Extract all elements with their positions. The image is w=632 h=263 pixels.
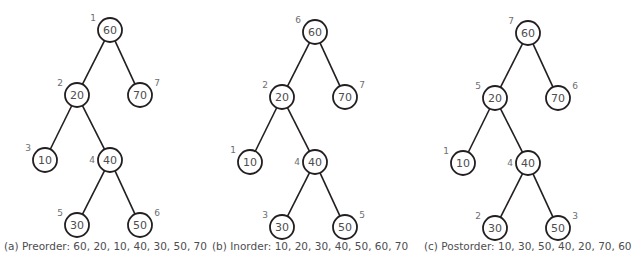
visit-order-label: 5 bbox=[475, 81, 481, 91]
node-value: 30 bbox=[488, 222, 502, 235]
edge-40-50 bbox=[115, 171, 135, 214]
edge-20-40 bbox=[500, 109, 522, 153]
tree-b: 606202707101404303505 bbox=[230, 15, 365, 239]
edge-40-50 bbox=[533, 174, 553, 217]
visit-order-label: 5 bbox=[359, 210, 365, 220]
node-value: 60 bbox=[103, 24, 117, 37]
edge-60-70 bbox=[533, 44, 553, 87]
node-value: 50 bbox=[551, 222, 565, 235]
edge-60-70 bbox=[115, 41, 135, 84]
edge-40-50 bbox=[320, 173, 340, 216]
node-value: 40 bbox=[308, 156, 322, 169]
edge-60-20 bbox=[287, 43, 309, 87]
tree-node-50: 506 bbox=[128, 208, 160, 237]
tree-node-70: 707 bbox=[128, 78, 160, 107]
tree-node-70: 707 bbox=[333, 80, 365, 109]
tree-a: 601202707103404305506 bbox=[25, 13, 160, 237]
visit-order-label: 1 bbox=[443, 146, 449, 156]
edge-20-10 bbox=[50, 106, 71, 149]
node-value: 10 bbox=[243, 156, 257, 169]
visit-order-label: 4 bbox=[507, 158, 513, 168]
edge-60-70 bbox=[320, 43, 340, 86]
caption-preorder: (a) Preorder: 60, 20, 10, 40, 30, 50, 70 bbox=[4, 240, 207, 252]
visit-order-label: 3 bbox=[262, 210, 268, 220]
edge-20-10 bbox=[255, 108, 276, 151]
node-value: 20 bbox=[488, 92, 502, 105]
visit-order-label: 5 bbox=[57, 208, 63, 218]
visit-order-label: 3 bbox=[572, 211, 578, 221]
node-value: 40 bbox=[521, 157, 535, 170]
edge-20-40 bbox=[82, 106, 104, 150]
tree-node-50: 505 bbox=[333, 210, 365, 239]
node-value: 70 bbox=[338, 91, 352, 104]
visit-order-label: 2 bbox=[57, 78, 63, 88]
visit-order-label: 3 bbox=[25, 143, 31, 153]
node-value: 30 bbox=[275, 221, 289, 234]
edge-20-10 bbox=[468, 109, 489, 152]
tree-node-70: 706 bbox=[546, 81, 578, 110]
visit-order-label: 1 bbox=[90, 13, 96, 23]
node-value: 30 bbox=[70, 219, 84, 232]
visit-order-label: 7 bbox=[508, 16, 514, 26]
visit-order-label: 1 bbox=[230, 145, 236, 155]
visit-order-label: 2 bbox=[262, 80, 268, 90]
edge-20-40 bbox=[287, 108, 309, 152]
visit-order-label: 6 bbox=[154, 208, 160, 218]
visit-order-label: 4 bbox=[89, 155, 95, 165]
edge-60-20 bbox=[82, 41, 104, 85]
visit-order-label: 6 bbox=[572, 81, 578, 91]
visit-order-label: 7 bbox=[359, 80, 365, 90]
node-value: 50 bbox=[133, 219, 147, 232]
tree-node-40: 404 bbox=[507, 151, 540, 175]
node-value: 20 bbox=[70, 89, 84, 102]
edge-60-20 bbox=[500, 44, 522, 88]
node-value: 60 bbox=[521, 27, 535, 40]
node-value: 60 bbox=[308, 26, 322, 39]
visit-order-label: 2 bbox=[475, 211, 481, 221]
tree-node-60: 601 bbox=[90, 13, 122, 42]
edge-40-30 bbox=[500, 174, 522, 218]
tree-node-60: 607 bbox=[508, 16, 540, 45]
node-value: 20 bbox=[275, 91, 289, 104]
visit-order-label: 6 bbox=[295, 15, 301, 25]
node-value: 50 bbox=[338, 221, 352, 234]
node-value: 10 bbox=[38, 154, 52, 167]
tree-node-10: 103 bbox=[25, 143, 57, 172]
visit-order-label: 4 bbox=[294, 157, 300, 167]
tree-c: 607205706101404302503 bbox=[443, 16, 578, 240]
node-value: 40 bbox=[103, 154, 117, 167]
node-value: 70 bbox=[133, 89, 147, 102]
tree-node-60: 606 bbox=[295, 15, 327, 44]
tree-node-50: 503 bbox=[546, 211, 578, 240]
edge-40-30 bbox=[82, 171, 104, 215]
caption-inorder: (b) Inorder: 10, 20, 30, 40, 50, 60, 70 bbox=[212, 240, 408, 252]
node-value: 10 bbox=[456, 157, 470, 170]
tree-node-40: 404 bbox=[89, 148, 122, 172]
node-value: 70 bbox=[551, 92, 565, 105]
edge-40-30 bbox=[287, 173, 309, 217]
tree-node-10: 101 bbox=[230, 145, 262, 174]
caption-postorder: (c) Postorder: 10, 30, 50, 40, 20, 70, 6… bbox=[424, 240, 632, 252]
tree-node-40: 404 bbox=[294, 150, 327, 174]
visit-order-label: 7 bbox=[154, 78, 160, 88]
tree-node-10: 101 bbox=[443, 146, 475, 175]
